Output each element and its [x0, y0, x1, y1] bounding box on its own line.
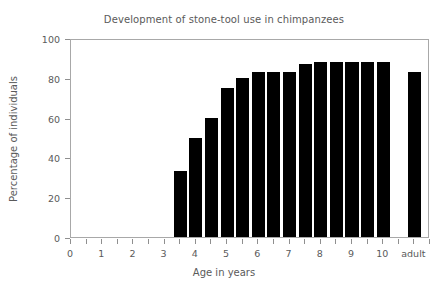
x-tick-mark [413, 239, 414, 244]
bar-9.0 [345, 62, 358, 237]
x-tick-mark [86, 239, 87, 244]
bar-8.5 [330, 62, 343, 237]
x-tick-label: 10 [376, 248, 388, 259]
bar-9.5 [361, 62, 374, 237]
x-tick-label: 1 [98, 248, 104, 259]
bar-adult [408, 72, 421, 237]
x-tick-label: 6 [254, 248, 260, 259]
x-tick-mark [164, 239, 165, 244]
y-axis: 020406080100 [0, 0, 70, 292]
x-tick-mark [195, 239, 196, 244]
x-tick-mark [351, 239, 352, 244]
x-tick-mark [179, 239, 180, 244]
x-tick-mark [132, 239, 133, 244]
x-tick-mark [429, 239, 430, 244]
x-tick-label: 9 [348, 248, 354, 259]
x-tick-mark [273, 239, 274, 244]
x-tick-label: adult [401, 248, 425, 259]
x-tick-mark [367, 239, 368, 244]
x-tick-label: 5 [223, 248, 229, 259]
bar-10.0 [377, 62, 390, 237]
x-tick-label: 7 [285, 248, 291, 259]
bar-6.5 [267, 72, 280, 237]
x-tick-mark [226, 239, 227, 244]
bar-5.0 [221, 88, 234, 237]
bar-7.0 [283, 72, 296, 237]
x-tick-mark [382, 239, 383, 244]
bar-3.5 [174, 171, 187, 237]
x-tick-label: 2 [129, 248, 135, 259]
y-tick-label: 20 [48, 193, 60, 204]
plot-area [71, 40, 428, 237]
y-tick-label: 0 [54, 233, 60, 244]
x-tick-mark [242, 239, 243, 244]
x-tick-mark [101, 239, 102, 244]
bar-6.0 [252, 72, 265, 237]
x-tick-mark [257, 239, 258, 244]
y-tick-label: 100 [42, 34, 60, 45]
x-tick-label: 0 [67, 248, 73, 259]
bar-5.5 [236, 78, 249, 237]
x-tick-label: 3 [161, 248, 167, 259]
x-tick-mark [335, 239, 336, 244]
x-tick-label: 8 [317, 248, 323, 259]
x-axis-title: Age in years [0, 267, 448, 278]
x-tick-mark [148, 239, 149, 244]
x-tick-mark [304, 239, 305, 244]
y-tick-label: 40 [48, 153, 60, 164]
bar-8.0 [314, 62, 327, 237]
x-tick-mark [320, 239, 321, 244]
bar-4.5 [205, 118, 218, 237]
bar-4.0 [189, 138, 202, 238]
bar-7.5 [299, 64, 312, 237]
x-tick-mark [210, 239, 211, 244]
y-tick-label: 80 [48, 73, 60, 84]
x-tick-mark [289, 239, 290, 244]
x-tick-mark [398, 239, 399, 244]
x-tick-mark [70, 239, 71, 244]
plot-frame [70, 39, 429, 238]
bar-chart-figure: Development of stone-tool use in chimpan… [0, 0, 448, 292]
x-axis: 012345678910adult [70, 239, 429, 289]
x-tick-label: 4 [192, 248, 198, 259]
x-tick-mark [117, 239, 118, 244]
y-tick-label: 60 [48, 113, 60, 124]
